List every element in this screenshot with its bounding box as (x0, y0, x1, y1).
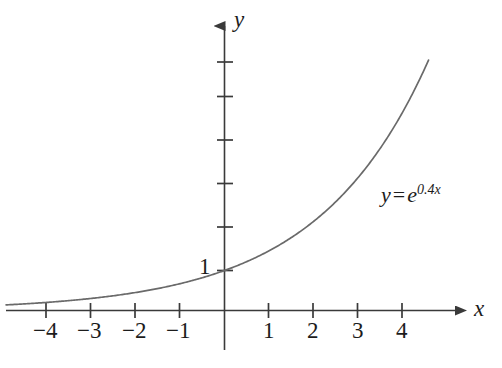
x-tick-label-minus-4: −4 (33, 319, 57, 342)
x-tick-label-minus-3: −3 (77, 319, 101, 342)
x-tick-label-minus-2: −2 (122, 319, 146, 342)
equation-lhs: y (381, 182, 391, 207)
x-tick-label-1: 1 (263, 319, 275, 342)
equation-exponent: 0.4x (417, 182, 441, 197)
x-tick-label-4: 4 (396, 319, 408, 342)
equation-base: e (407, 182, 417, 207)
equation-operator: = (391, 182, 407, 207)
x-tick-label-2: 2 (307, 319, 319, 342)
y-axis-label: y (234, 8, 244, 31)
exponential-function-graph: −4 −3 −2 −1 1 2 3 4 1 x y y=e0.4x (0, 0, 502, 368)
curve-equation-label: y=e0.4x (381, 183, 441, 206)
x-tick-label-minus-1: −1 (166, 319, 190, 342)
y-tick-label-1: 1 (199, 255, 211, 278)
x-axis-label: x (474, 297, 484, 320)
x-tick-label-3: 3 (352, 319, 364, 342)
